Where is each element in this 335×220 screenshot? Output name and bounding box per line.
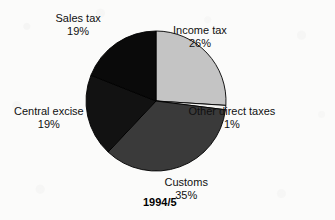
pie-label-name-other-direct-taxes: Other direct taxes xyxy=(189,105,276,118)
pie-label-name-sales-tax: Sales tax xyxy=(56,12,101,25)
pie-label-percent-sales-tax: 19% xyxy=(56,25,101,38)
pie-label-other-direct-taxes: Other direct taxes1% xyxy=(189,105,276,131)
pie-label-percent-central-excise: 19% xyxy=(14,118,84,131)
pie-label-central-excise: Central excise19% xyxy=(14,105,84,131)
chart-caption: 1994/5 xyxy=(143,196,177,208)
pie-label-percent-income-tax: 26% xyxy=(173,37,227,50)
pie-label-name-central-excise: Central excise xyxy=(14,105,84,118)
pie-chart-figure: Income tax26%Other direct taxes1%Customs… xyxy=(0,0,335,220)
pie-label-income-tax: Income tax26% xyxy=(173,24,227,50)
pie-slice-group xyxy=(86,31,226,171)
pie-label-sales-tax: Sales tax19% xyxy=(56,12,101,38)
pie-label-name-income-tax: Income tax xyxy=(173,24,227,37)
pie-label-name-customs: Customs xyxy=(165,176,208,189)
pie-label-percent-other-direct-taxes: 1% xyxy=(189,118,276,131)
